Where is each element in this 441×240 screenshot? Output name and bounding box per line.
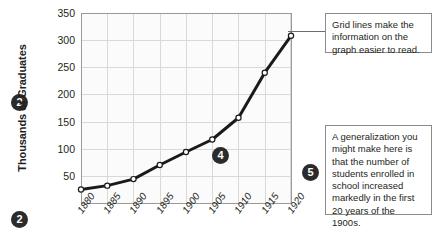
data-point-marker: [262, 70, 267, 75]
data-point-marker: [210, 137, 215, 142]
data-point-marker: [236, 115, 241, 120]
data-point-marker: [78, 187, 83, 192]
data-point-marker: [183, 149, 188, 154]
data-point-marker: [157, 162, 162, 167]
data-point-marker: [288, 33, 293, 38]
chart-figure: 2 2 Thousands of Graduates 350 300 250 2…: [0, 0, 441, 240]
callout-generalization: A generalization you might make here is …: [325, 125, 432, 215]
callout-badge-4[interactable]: 4: [212, 147, 229, 164]
callout-grid-lines: Grid lines make the information on the g…: [325, 13, 432, 53]
callout-badge-5[interactable]: 5: [302, 164, 319, 181]
data-point-marker: [105, 183, 110, 188]
data-point-marker: [131, 177, 136, 182]
callout-leader-line: [288, 31, 326, 32]
